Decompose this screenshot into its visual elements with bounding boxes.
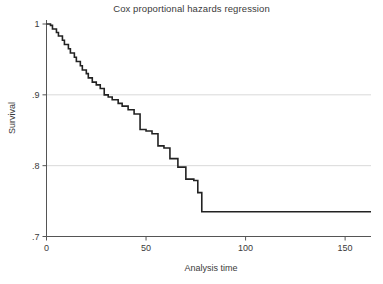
axes-group xyxy=(47,20,372,237)
survival-chart: Cox proportional hazards regression .7.8… xyxy=(0,0,383,284)
y-axis-title: Survival xyxy=(7,70,17,166)
plot-area: .7.8.91050100150 xyxy=(0,0,383,284)
y-tick-label: 1 xyxy=(34,19,39,29)
y-tick-label: .8 xyxy=(32,161,40,171)
y-tick-label: .9 xyxy=(32,90,40,100)
x-tick-label: 0 xyxy=(44,243,49,253)
y-tick-label: .7 xyxy=(32,232,40,242)
survival-curve-path xyxy=(47,24,372,212)
x-tick-label: 100 xyxy=(238,243,253,253)
x-axis-title: Analysis time xyxy=(46,263,376,273)
y-axis-title-wrap: Survival xyxy=(2,0,18,284)
x-tick-label: 50 xyxy=(141,243,151,253)
x-tick-label: 150 xyxy=(338,243,353,253)
tick-marks-group xyxy=(43,24,346,241)
survival-step-line xyxy=(47,24,372,212)
gridlines-group xyxy=(47,95,372,237)
tick-labels-group: .7.8.91050100150 xyxy=(32,19,353,252)
